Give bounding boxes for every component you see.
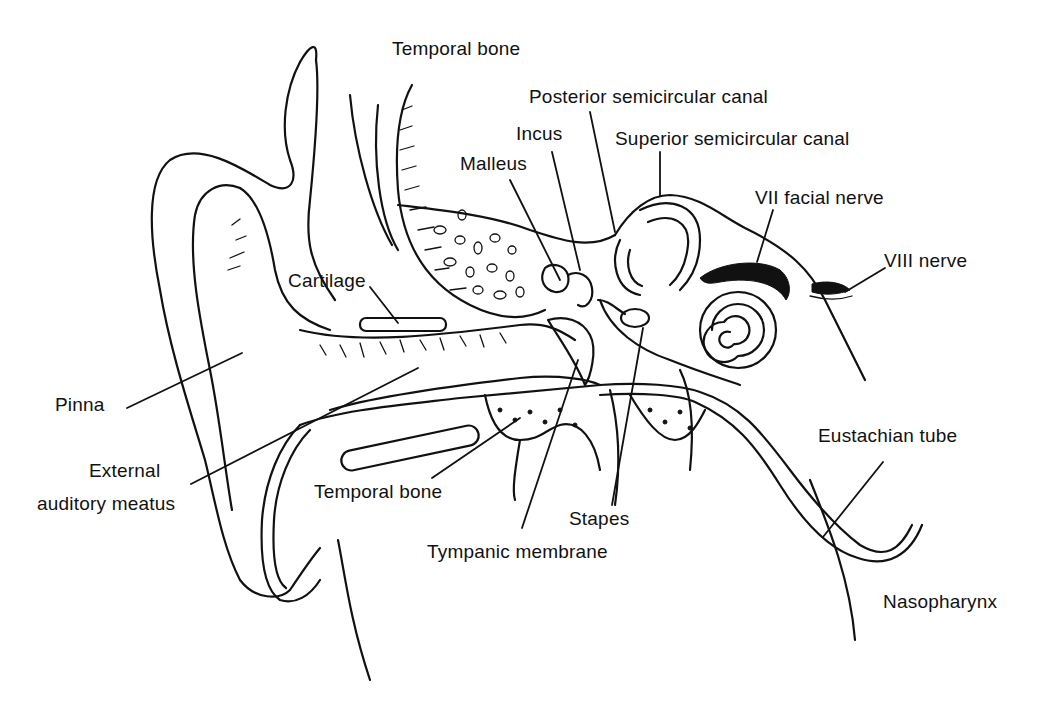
label-temporal-bone-top: Temporal bone [392,38,520,60]
label-stapes: Stapes [569,508,629,530]
label-pinna: Pinna [55,394,105,416]
semicircular-canals [640,203,700,290]
label-external-auditory-meatus-2: auditory meatus [37,493,175,515]
ear-canal-lower [330,377,600,410]
incus-shape [568,273,592,306]
cartilage-shape [360,318,446,331]
label-superior-semicircular-canal: Superior semicircular canal [615,128,850,150]
bone-dots [498,408,692,430]
ear-canal-upper [300,324,575,340]
label-posterior-semicircular-canal: Posterior semicircular canal [529,86,768,108]
cochlea [700,292,776,368]
label-cartilage: Cartilage [288,270,366,292]
pinna-outline [152,62,320,597]
label-vii-facial-nerve: VII facial nerve [755,187,884,209]
label-nasopharynx: Nasopharynx [883,591,997,613]
label-tympanic-membrane: Tympanic membrane [427,541,608,563]
label-temporal-bone-bottom: Temporal bone [314,481,442,503]
label-eustachian-tube: Eustachian tube [818,425,957,447]
label-incus: Incus [516,123,562,145]
label-viii-nerve: VIII nerve [884,250,967,272]
helix [193,185,240,510]
ear-anatomy-diagram: Temporal bone Posterior semicircular can… [0,0,1056,706]
facial-nerve-shape [700,263,789,300]
label-malleus: Malleus [460,153,527,175]
label-external-auditory-meatus-1: External [89,460,160,482]
temporal-bone-upper [397,85,545,317]
